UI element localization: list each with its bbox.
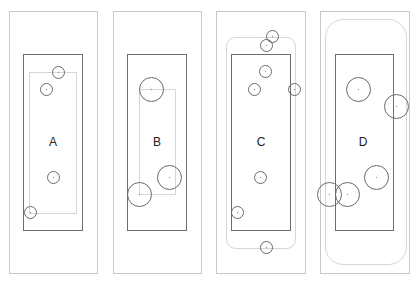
- panel-c-circle-center-3: [265, 71, 266, 72]
- panel-d-circle-center-3: [376, 177, 377, 178]
- panel-d-circle-center-5: [347, 194, 348, 195]
- diagram-drawing: [0, 0, 419, 284]
- panel-c-circle-center-6: [260, 177, 261, 178]
- panel-d-label: D: [359, 136, 368, 148]
- panel-d-circle-center-4: [329, 194, 330, 195]
- panel-c-circle-center-7: [237, 212, 238, 213]
- panel-a-label: A: [49, 136, 57, 148]
- panel-a-circle-center-3: [53, 177, 54, 178]
- panel-c-circle-center-5: [294, 89, 295, 90]
- panel-c-label: C: [257, 136, 266, 148]
- diagram-canvas: A B C D: [0, 0, 419, 284]
- panel-b-circle-center-2: [169, 177, 170, 178]
- panel-c-circle-center-8: [266, 247, 267, 248]
- panel-b-circle-center-3: [139, 194, 140, 195]
- panel-b-circle-center-1: [151, 89, 152, 90]
- panel-d-circle-center-2: [396, 106, 397, 107]
- panel-a-circle-center-1: [58, 72, 59, 73]
- panel-a-circle-center-4: [30, 212, 31, 213]
- panel-a-circle-center-2: [46, 89, 47, 90]
- panel-c-circle-center-2: [266, 45, 267, 46]
- panel-d-circle-center-1: [358, 89, 359, 90]
- panel-c-circle-center-4: [254, 89, 255, 90]
- panel-b-label: B: [153, 136, 161, 148]
- panel-c-circle-center-1: [272, 36, 273, 37]
